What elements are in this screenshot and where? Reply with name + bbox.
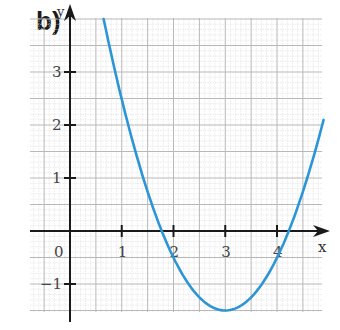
grid-minor-lines (30, 18, 322, 312)
x-tick-label: 1 (118, 243, 128, 261)
y-tick-label: 1 (52, 169, 62, 187)
parabola-line (104, 19, 324, 311)
y-axis-label: y (56, 4, 65, 19)
y-tick-label: −1 (40, 275, 62, 293)
parabola-chart: xy 01234−1123 (0, 0, 340, 330)
x-tick-label: 0 (54, 243, 64, 261)
x-tick-label: 3 (221, 243, 231, 261)
x-axis-label: x (318, 238, 327, 256)
y-tick-label: 3 (52, 63, 62, 81)
y-tick-label: 2 (52, 116, 62, 134)
parabola-curve (104, 19, 324, 311)
